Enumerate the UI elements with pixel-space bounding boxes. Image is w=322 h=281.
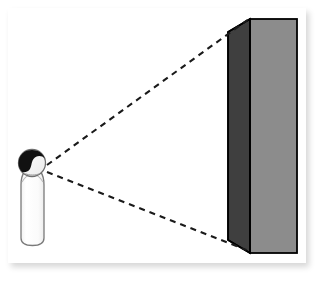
diagram-canvas bbox=[0, 0, 322, 281]
panel-box bbox=[228, 19, 297, 253]
panel-side-face bbox=[228, 19, 250, 253]
sight-line-lower-icon bbox=[47, 172, 247, 250]
observer-figure bbox=[18, 150, 46, 246]
observer-body bbox=[21, 169, 44, 246]
panel-front-face bbox=[250, 19, 297, 253]
diagram-scene bbox=[0, 0, 322, 281]
diagram-svg bbox=[0, 0, 322, 281]
sight-lines bbox=[47, 20, 248, 250]
sight-line-upper-icon bbox=[47, 20, 248, 165]
